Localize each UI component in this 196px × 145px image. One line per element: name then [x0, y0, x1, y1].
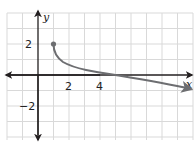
y-tick-neg2: −2: [19, 100, 35, 113]
graph: 2 4 2 −2 x y: [0, 0, 196, 145]
x-tick-4: 4: [96, 80, 103, 93]
y-axis-label: y: [42, 11, 50, 24]
function-curve: [54, 44, 192, 89]
axes: [6, 11, 192, 140]
y-tick-2: 2: [25, 38, 32, 51]
grid: [7, 13, 193, 140]
x-tick-2: 2: [65, 80, 72, 93]
start-point: [51, 41, 56, 46]
